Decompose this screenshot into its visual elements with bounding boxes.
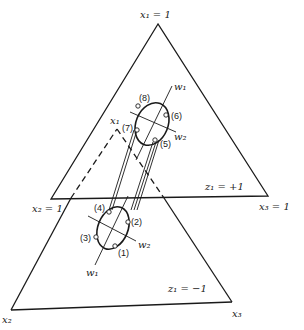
point-8	[136, 104, 140, 108]
upper-point-6-label: (6)	[171, 111, 182, 121]
upper-plane-label: z₁ = +1	[204, 181, 244, 192]
point-3	[94, 235, 98, 239]
point-4	[107, 210, 111, 214]
upper-point-8-label: (8)	[139, 93, 150, 103]
lower-plane-label: z₁ = −1	[167, 283, 207, 294]
lower-point-1-label: (1)	[118, 248, 129, 258]
point-2	[126, 220, 130, 224]
lower-vertex-right-label: x₃	[232, 308, 242, 319]
point-6	[164, 113, 168, 117]
point-7	[135, 128, 139, 132]
upper-vertex-top-label: x₁ = 1	[140, 9, 171, 20]
lower-point-2-label: (2)	[131, 217, 142, 227]
upper-vertex-left-label: x₂ = 1	[32, 203, 63, 214]
lower-w2-label: w₂	[138, 239, 151, 250]
mixture-design-diagram: x₁ = 1 x₂ = 1 x₃ = 1 z₁ = +1 w₁ w₂ (8) (…	[0, 0, 304, 330]
upper-point-7-label: (7)	[122, 123, 133, 133]
lower-w1-label: w₁	[86, 267, 99, 278]
lower-point-3-label: (3)	[80, 233, 91, 243]
point-5	[153, 138, 157, 142]
lower-vertex-top-label: x₁	[110, 115, 120, 126]
lower-vertex-left-label: x₂	[2, 314, 12, 325]
upper-w1-label: w₁	[174, 81, 187, 92]
upper-point-5-label: (5)	[160, 139, 171, 149]
lower-point-4-label: (4)	[94, 203, 105, 213]
upper-vertex-right-label: x₃ = 1	[259, 201, 290, 212]
point-1	[113, 244, 117, 248]
upper-w2-label: w₂	[174, 131, 187, 142]
